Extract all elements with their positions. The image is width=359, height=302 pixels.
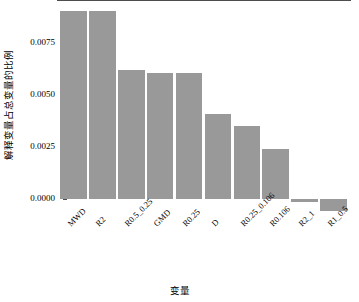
x-tick-label: R0.106 <box>268 204 292 228</box>
x-tick-label: R0.5_0.25 <box>123 197 154 228</box>
x-tick-label: GMD <box>152 208 172 228</box>
x-axis-tick-labels: MWDR2R0.5_0.25GMDR0.25DR0.25_0.106R0.106… <box>0 0 359 302</box>
x-tick-label: D <box>210 218 220 228</box>
chart-figure: 解释变量占总变量的比例 0.00750.00500.00250.0000 MWD… <box>0 0 359 302</box>
x-tick-label: R2 <box>94 215 107 228</box>
x-tick-label: R0.25 <box>181 207 202 228</box>
x-tick-label: R1_0.5 <box>326 204 350 228</box>
x-tick-label: MWD <box>66 207 87 228</box>
x-axis-title: 变量 <box>0 283 359 297</box>
x-tick-label: R2_1 <box>297 209 316 228</box>
